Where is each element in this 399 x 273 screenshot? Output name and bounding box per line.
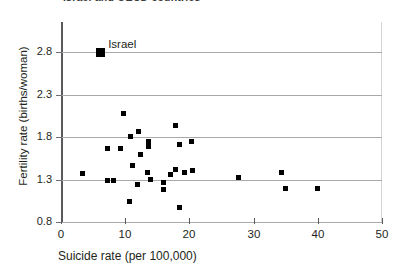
data-point <box>236 175 241 180</box>
data-point <box>279 170 284 175</box>
chart-title-text: Israel and OECD countries <box>63 0 243 3</box>
x-tick-50 <box>382 218 383 224</box>
x-tick-0 <box>61 218 62 224</box>
data-point <box>127 199 132 204</box>
gridline-y-0.8 <box>61 222 382 223</box>
x-tick-label-30: 30 <box>234 228 274 240</box>
data-point <box>283 186 288 191</box>
x-tick-label-0: 0 <box>41 228 81 240</box>
data-point <box>146 144 151 149</box>
x-tick-10 <box>125 218 126 224</box>
data-point <box>146 139 151 144</box>
data-point <box>138 152 143 157</box>
y-tick-label-1.3: 1.3 <box>0 173 52 185</box>
data-point <box>173 167 178 172</box>
y-tick-label-2.8: 2.8 <box>0 45 52 57</box>
data-point <box>130 163 135 168</box>
data-point <box>145 170 150 175</box>
data-point <box>161 180 166 185</box>
data-point <box>111 178 116 183</box>
data-point <box>148 177 153 182</box>
data-point <box>315 186 320 191</box>
y-tick-label-2.3: 2.3 <box>0 88 52 100</box>
scatter-chart: Israel and OECD countries Fertility rate… <box>0 0 399 273</box>
data-point <box>168 172 173 177</box>
data-point <box>118 146 123 151</box>
data-point-israel <box>96 48 105 57</box>
data-point <box>136 129 141 134</box>
data-point <box>177 205 182 210</box>
x-tick-40 <box>318 218 319 224</box>
y-tick-1.8 <box>56 137 62 138</box>
x-tick-label-10: 10 <box>105 228 145 240</box>
data-point <box>105 146 110 151</box>
y-tick-2.8 <box>56 52 62 53</box>
gridline-y-2.3 <box>61 95 382 96</box>
data-point <box>121 111 126 116</box>
x-tick-label-20: 20 <box>169 228 209 240</box>
x-tick-label-40: 40 <box>298 228 338 240</box>
y-tick-2.3 <box>56 95 62 96</box>
y-tick-1.3 <box>56 180 62 181</box>
data-point <box>182 170 187 175</box>
annotation-label-israel: Israel <box>108 38 136 50</box>
data-point <box>128 134 133 139</box>
y-tick-label-1.8: 1.8 <box>0 130 52 142</box>
data-point <box>161 187 166 192</box>
x-tick-label-50: 50 <box>362 228 399 240</box>
x-tick-20 <box>189 218 190 224</box>
data-point <box>135 182 140 187</box>
data-point <box>177 142 182 147</box>
gridline-y-1.8 <box>61 137 382 138</box>
data-point <box>189 139 194 144</box>
data-point <box>80 171 85 176</box>
gridline-y-2.8 <box>61 52 382 53</box>
y-tick-label-0.8: 0.8 <box>0 215 52 227</box>
data-point <box>173 123 178 128</box>
x-axis-title: Suicide rate (per 100,000) <box>58 249 358 263</box>
chart-title-clipped: Israel and OECD countries <box>63 0 243 3</box>
data-point <box>190 168 195 173</box>
x-tick-30 <box>254 218 255 224</box>
